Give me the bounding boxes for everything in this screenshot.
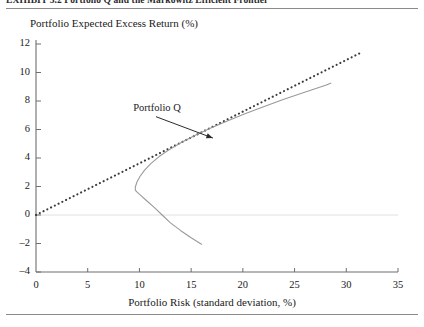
- chart-canvas: [0, 0, 424, 327]
- y-tick-label: 4: [10, 151, 30, 162]
- y-tick-label: –4: [10, 265, 30, 276]
- annotation-arrow-head: [206, 133, 213, 138]
- y-tick-label: 12: [10, 37, 30, 48]
- x-tick-label: 0: [25, 279, 47, 290]
- y-tick-label: 10: [10, 66, 30, 77]
- annotation-portfolio-q: Portfolio Q: [133, 102, 181, 113]
- x-tick-label: 10: [128, 279, 150, 290]
- y-tick-label: 2: [10, 180, 30, 191]
- x-tick-label: 20: [232, 279, 254, 290]
- x-tick-label: 5: [77, 279, 99, 290]
- bottom-divider: [6, 314, 418, 315]
- y-tick-label: 6: [10, 123, 30, 134]
- figure-exhibit: EXHIBIT 3.2 Portfolio Q and the Markowit…: [0, 0, 424, 327]
- y-tick-label: 0: [10, 208, 30, 219]
- y-tick-label: 8: [10, 94, 30, 105]
- x-tick-label: 15: [180, 279, 202, 290]
- x-tick-label: 25: [284, 279, 306, 290]
- y-tick-label: –2: [10, 237, 30, 248]
- annotation-arrow-shaft: [156, 117, 213, 138]
- x-axis-title: Portfolio Risk (standard deviation, %): [0, 296, 424, 308]
- x-tick-label: 30: [335, 279, 357, 290]
- x-tick-label: 35: [387, 279, 409, 290]
